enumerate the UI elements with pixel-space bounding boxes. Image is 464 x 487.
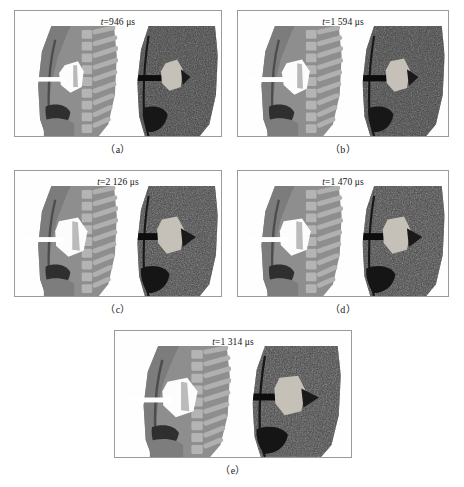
time-value-a: 946 (109, 17, 124, 27)
thorax-illustration-svg-d (246, 186, 343, 296)
time-label-b: t=1 594 μs (322, 17, 364, 27)
panel-caption-e: （e） (114, 462, 352, 477)
panel-caption-a: （a） (14, 141, 222, 156)
panel-group-c: t=2 126 μs (14, 170, 222, 320)
time-unit-c: μs (130, 177, 139, 187)
radiograph-a (124, 26, 219, 136)
radiograph-svg-c (124, 186, 219, 296)
xray-body-region (349, 186, 446, 296)
radiograph-svg-d (349, 186, 446, 296)
thorax-illustration-svg-e (127, 346, 231, 457)
panel-caption-b: （b） (237, 141, 449, 156)
panel-e: t=1 314 μs (114, 330, 352, 458)
time-unit-d: μs (355, 177, 364, 187)
fragment-shadow (298, 63, 304, 89)
thorax-illustration-svg-b (246, 26, 343, 136)
panel-group-e: t=1 314 μs (114, 330, 352, 482)
wound-track (23, 237, 65, 242)
panel-caption-c: （c） (14, 301, 222, 316)
thorax-illustration-svg-c (23, 186, 118, 296)
wound-track (25, 77, 65, 82)
xray-body-region (349, 26, 446, 136)
illustration-d (246, 186, 343, 296)
illustration-a (23, 26, 118, 136)
panel-c: t=2 126 μs (14, 170, 222, 297)
wound-track (127, 398, 173, 403)
panel-group-d: t=1 470 μs (237, 170, 449, 320)
illustration-e (127, 346, 231, 457)
wound-track (248, 77, 289, 82)
panel-b: t=1 594 μs (237, 10, 449, 137)
panel-caption-d: （d） (237, 301, 449, 316)
time-label-a: t=946 μs (101, 17, 135, 27)
radiograph-b (349, 26, 446, 136)
time-value-c: 2 126 (105, 177, 127, 187)
radiograph-svg-b (349, 26, 446, 136)
time-value-b: 1 594 (330, 17, 352, 27)
time-unit-b: μs (355, 17, 364, 27)
time-label-c: t=2 126 μs (97, 177, 139, 187)
time-unit-e: μs (245, 337, 254, 347)
time-label-d: t=1 470 μs (322, 177, 364, 187)
panel-a: t=946 μs (14, 10, 222, 137)
time-value-e: 1 314 (220, 337, 242, 347)
panel-group-b: t=1 594 μs (237, 10, 449, 160)
xray-body-region (124, 186, 219, 296)
figure-root: t=946 μs (0, 0, 464, 487)
thorax-illustration-svg-a (23, 26, 118, 136)
wound-track (246, 237, 289, 242)
xray-body-region (124, 26, 219, 136)
radiograph-svg-a (124, 26, 219, 136)
radiograph-d (349, 186, 446, 296)
illustration-b (246, 26, 343, 136)
time-unit-a: μs (126, 17, 135, 27)
time-label-e: t=1 314 μs (212, 337, 254, 347)
panel-d: t=1 470 μs (237, 170, 449, 297)
fragment-shadow (297, 221, 304, 249)
radiograph-e (238, 346, 342, 457)
panel-group-a: t=946 μs (14, 10, 222, 160)
radiograph-svg-e (238, 346, 342, 457)
illustration-c (23, 186, 118, 296)
radiograph-c (124, 186, 219, 296)
xray-body-region (238, 346, 342, 457)
time-value-d: 1 470 (330, 177, 352, 187)
vertebral-column (82, 30, 92, 133)
